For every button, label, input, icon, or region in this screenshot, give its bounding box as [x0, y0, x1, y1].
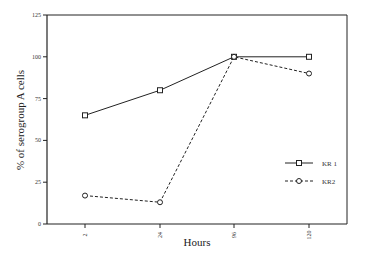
- circle-marker: [232, 54, 237, 59]
- square-marker: [307, 54, 312, 59]
- square-marker: [158, 88, 163, 93]
- square-marker: [83, 113, 88, 118]
- y-tick-label: 125: [32, 12, 41, 18]
- y-tick-label: 25: [35, 179, 41, 185]
- legend-label: KR2: [322, 178, 336, 186]
- y-tick-label: 50: [35, 137, 41, 143]
- circle-marker: [158, 200, 163, 205]
- legend-square-icon: [297, 161, 302, 166]
- x-axis-title: Hours: [184, 236, 211, 248]
- x-tick-label: 120: [306, 231, 312, 240]
- plot-frame: [47, 15, 347, 224]
- y-axis-title: % of serogroup A cells: [14, 70, 26, 170]
- x-tick-label: 96: [231, 232, 237, 238]
- line-chart: 0255075100125 22496120 KR 1KR2 Hours % o…: [0, 0, 365, 258]
- legend: KR 1KR2: [285, 160, 337, 186]
- circle-marker: [307, 71, 312, 76]
- y-tick-label: 0: [38, 221, 41, 227]
- x-tick-label: 24: [157, 232, 163, 238]
- y-tick-label: 75: [35, 96, 41, 102]
- series-line-1: [85, 57, 309, 202]
- y-tick-label: 100: [32, 54, 41, 60]
- x-tick-label: 2: [82, 234, 88, 237]
- data-series: [83, 54, 312, 204]
- legend-circle-icon: [297, 179, 302, 184]
- legend-label: KR 1: [322, 160, 337, 168]
- circle-marker: [83, 193, 88, 198]
- y-axis-ticks: 0255075100125: [32, 12, 47, 227]
